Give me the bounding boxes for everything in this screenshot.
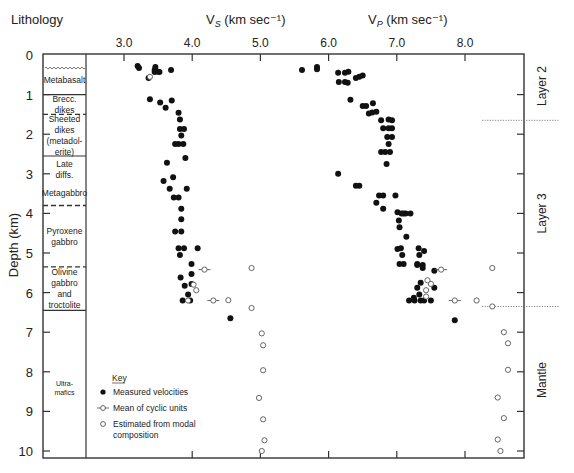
measured-velocity-point [189, 271, 195, 277]
estimated-velocity-point [259, 448, 264, 453]
estimated-velocity-point [256, 395, 261, 400]
measured-velocity-point [370, 100, 376, 106]
layer-label: Layer 3 [535, 193, 549, 233]
estimated-velocity-point [226, 298, 231, 303]
measured-velocity-point [373, 200, 379, 206]
estimated-velocity-point [501, 330, 506, 335]
x-top-tick-label: 6.0 [320, 36, 337, 50]
measured-velocity-point [345, 69, 351, 75]
estimated-velocity-point [490, 304, 495, 309]
measured-velocity-point [403, 234, 409, 240]
measured-velocity-point [401, 210, 407, 216]
estimated-velocity-point [424, 288, 429, 293]
estimated-velocity-point [495, 395, 500, 400]
estimated-velocity-point [261, 417, 266, 422]
measured-velocity-point [157, 100, 163, 106]
estimated-velocity-point [259, 331, 264, 336]
measured-velocity-point [407, 210, 413, 216]
wavy-contact-line [45, 67, 85, 69]
measured-velocity-point [396, 218, 402, 224]
y-tick-label: 6 [26, 286, 33, 301]
cyclic-mean-point [439, 267, 444, 272]
measured-velocity-point [389, 125, 395, 131]
measured-velocity-point [378, 117, 384, 123]
measured-velocity-point [184, 186, 190, 192]
y-tick-label: 9 [26, 404, 33, 419]
measured-velocity-point [380, 206, 386, 212]
layer-label: Mantle [535, 362, 549, 398]
estimated-velocity-point [498, 448, 503, 453]
measured-velocity-point [431, 268, 437, 274]
legend-filled-marker-icon [100, 389, 105, 394]
x-top-tick-label: 7.0 [388, 36, 405, 50]
measured-velocity-point [182, 283, 188, 289]
measured-velocity-point [420, 265, 426, 271]
measured-velocity-point [185, 292, 191, 298]
measured-velocity-point [180, 298, 186, 304]
measured-velocity-point [356, 183, 362, 189]
measured-velocity-point [389, 134, 395, 140]
measured-velocity-point [347, 97, 353, 103]
measured-velocity-point [299, 67, 305, 73]
measured-velocity-point [360, 73, 366, 79]
estimated-velocity-point [490, 265, 495, 270]
measured-velocity-point [176, 110, 182, 116]
measured-velocity-point [178, 229, 184, 235]
measured-velocity-point [414, 262, 420, 268]
measured-velocity-point [177, 117, 183, 123]
legend-entry-label: Mean of cyclic units [113, 403, 187, 413]
chart-frame [43, 54, 524, 458]
measured-velocity-point [164, 160, 170, 166]
measured-velocity-point [170, 174, 176, 180]
measured-velocity-point [181, 126, 187, 132]
x-top-tick-label: 8.0 [457, 36, 474, 50]
legend-entry-label: Estimated from modalcomposition [113, 419, 196, 440]
x-top-tick-label: 3.0 [116, 36, 133, 50]
measured-velocity-point [386, 141, 392, 147]
x-top-tick-label: 4.0 [184, 36, 201, 50]
velocity-depth-chart: MetabasaltBrecc.dikesSheeteddikes(metado… [0, 0, 574, 473]
legend-title: Key [112, 373, 127, 383]
lithology-column: MetabasaltBrecc.dikesSheeteddikes(metado… [42, 67, 88, 396]
y-tick-label: 1 [26, 88, 33, 103]
measured-velocity-point [169, 98, 175, 104]
estimated-velocity-point [262, 438, 267, 443]
y-tick-label: 3 [26, 167, 33, 182]
estimated-velocity-point [261, 368, 266, 373]
cyclic-mean-point [202, 267, 207, 272]
legend-open-marker-icon [101, 422, 106, 427]
measured-velocity-point [373, 109, 379, 115]
estimated-velocity-point [186, 298, 191, 303]
estimated-velocity-point [147, 74, 152, 79]
measured-velocity-point [384, 161, 390, 167]
estimated-velocity-point [249, 265, 254, 270]
measured-velocity-point [181, 245, 187, 251]
measured-velocity-point [392, 193, 398, 199]
measured-velocity-point [168, 67, 174, 73]
measured-velocity-point [336, 79, 342, 85]
cyclic-mean-point [211, 298, 216, 303]
estimated-velocity-point [474, 298, 479, 303]
measured-velocity-point [227, 315, 233, 321]
y-tick-label: 10 [19, 444, 33, 459]
plot-border [43, 54, 524, 458]
measured-velocity-point [176, 195, 182, 201]
lithology-label: Latediffs. [56, 159, 74, 180]
measured-velocity-point [172, 229, 178, 235]
lithology-label: Sheeteddikes(metadol-erite) [47, 114, 83, 157]
layer-annotations: Layer 2Layer 3Mantle [482, 66, 560, 398]
measured-velocity-point [167, 186, 173, 192]
y-tick-label: 5 [26, 246, 33, 261]
measured-velocity-point [195, 245, 201, 251]
lithology-label: Brecc.dikes [52, 94, 76, 115]
measured-velocity-point [182, 155, 188, 161]
estimated-velocity-point [249, 305, 254, 310]
y-tick-label: 8 [26, 365, 33, 380]
y-tick-label: 0 [26, 48, 33, 63]
measured-velocity-point [155, 69, 161, 75]
cyclic-mean-point [452, 298, 457, 303]
lithology-label: Metabasalt [44, 75, 86, 85]
measured-velocity-point [452, 317, 458, 323]
estimated-velocity-point [194, 288, 199, 293]
measured-velocity-point [178, 216, 184, 222]
